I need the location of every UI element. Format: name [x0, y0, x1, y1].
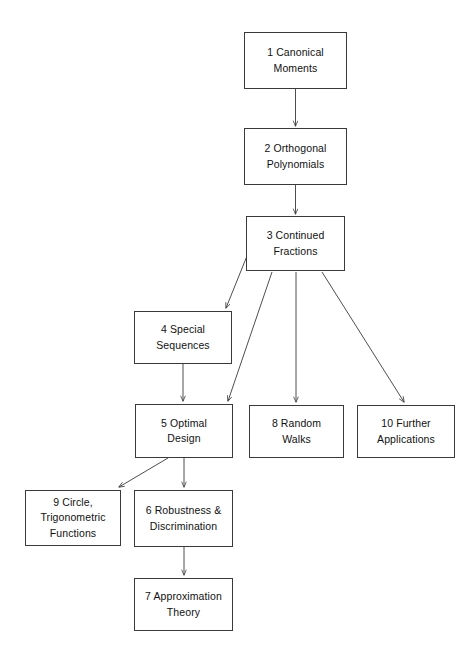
edge-n3-to-n10: [322, 272, 404, 402]
edge-n3-to-n5: [228, 272, 272, 401]
node-6-robustness-discrimination[interactable]: 6 Robustness & Discrimination: [134, 490, 233, 547]
node-6-label: 6 Robustness & Discrimination: [146, 503, 222, 533]
node-5-label: 5 Optimal Design: [161, 416, 207, 446]
node-2-orthogonal-polynomials[interactable]: 2 Orthogonal Polynomials: [244, 128, 347, 185]
node-1-canonical-moments[interactable]: 1 Canonical Moments: [244, 32, 347, 89]
edge-n5-to-n9: [119, 458, 168, 487]
node-8-label: 8 Random Walks: [272, 416, 321, 446]
node-9-label: 9 Circle, Trigonometric Functions: [40, 495, 105, 541]
node-9-circle-trigonometric-functions[interactable]: 9 Circle, Trigonometric Functions: [25, 490, 121, 546]
node-4-special-sequences[interactable]: 4 Special Sequences: [134, 311, 232, 364]
node-10-label: 10 Further Applications: [377, 416, 435, 446]
node-4-label: 4 Special Sequences: [156, 322, 209, 352]
node-7-approximation-theory[interactable]: 7 Approximation Theory: [134, 578, 233, 631]
node-7-label: 7 Approximation Theory: [145, 589, 222, 619]
flowchart-diagram: 1 Canonical Moments 2 Orthogonal Polynom…: [0, 0, 474, 667]
node-1-label: 1 Canonical Moments: [267, 45, 324, 75]
node-10-further-applications[interactable]: 10 Further Applications: [357, 405, 455, 458]
node-3-label: 3 Continued Fractions: [267, 228, 325, 258]
node-2-label: 2 Orthogonal Polynomials: [265, 141, 327, 171]
node-5-optimal-design[interactable]: 5 Optimal Design: [135, 404, 233, 458]
node-3-continued-fractions[interactable]: 3 Continued Fractions: [246, 216, 345, 271]
node-8-random-walks[interactable]: 8 Random Walks: [249, 405, 344, 458]
edge-layer: [0, 0, 474, 667]
